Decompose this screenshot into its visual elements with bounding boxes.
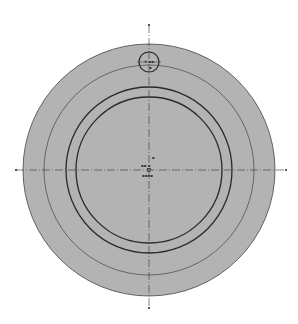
axis-end-right-dot <box>285 169 287 171</box>
center-label-top: ▪ <box>152 155 155 160</box>
center-label-left: ▪▪ ▪ <box>141 163 151 168</box>
small-circle-label-bottom: ▪ <box>149 65 152 70</box>
small-circle-label-top: ⊕ ▪▪ <box>144 59 154 64</box>
center-label-bottom: ▪▪▪▪ <box>142 173 153 178</box>
axis-end-top-dot <box>148 24 150 26</box>
cad-drawing: ⊕ ▪▪ ▪ ▪ ▪▪ ▪ ▪▪▪▪ <box>0 0 298 324</box>
axis-end-bottom-dot <box>148 307 150 309</box>
axis-end-left-dot <box>15 169 17 171</box>
